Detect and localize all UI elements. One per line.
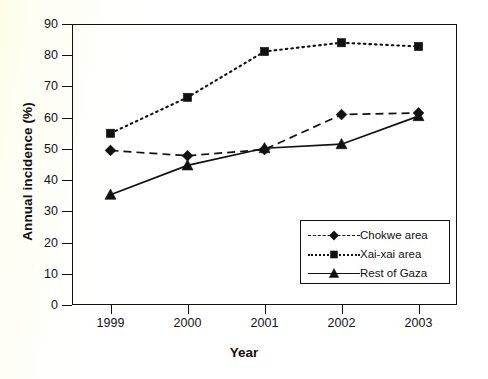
y-axis-tick-label: 10 xyxy=(18,268,58,281)
y-axis-tick xyxy=(62,243,72,244)
data-point-marker xyxy=(105,145,116,156)
y-axis-tick xyxy=(62,149,72,150)
y-axis-tick xyxy=(62,211,72,212)
series-xai-xai-area xyxy=(106,39,422,138)
data-point-marker xyxy=(336,109,347,120)
data-point-marker xyxy=(106,129,114,137)
x-axis-tick xyxy=(419,305,420,314)
x-axis-tick xyxy=(111,305,112,314)
data-point-marker xyxy=(260,47,268,55)
legend-key xyxy=(308,229,360,243)
y-axis-tick xyxy=(62,86,72,87)
legend-label: Xai-xai area xyxy=(360,249,421,261)
x-axis-title: Year xyxy=(0,345,488,360)
x-axis-tick xyxy=(265,305,266,314)
legend-item: Xai-xai area xyxy=(301,245,449,264)
chart-legend: Chokwe areaXai-xai areaRest of Gaza xyxy=(300,220,450,284)
series-line xyxy=(111,43,419,134)
x-axis-tick xyxy=(342,305,343,314)
y-axis-tick-label: 20 xyxy=(18,236,58,249)
data-point-marker xyxy=(414,42,422,50)
y-axis-tick-label: 90 xyxy=(18,18,58,31)
y-axis-tick-label: 60 xyxy=(18,111,58,124)
y-axis-tick-label: 50 xyxy=(18,143,58,156)
legend-key xyxy=(308,267,360,281)
y-axis-tick xyxy=(62,274,72,275)
legend-item: Rest of Gaza xyxy=(301,264,449,283)
legend-label: Chokwe area xyxy=(360,230,428,242)
y-axis-tick-label: 70 xyxy=(18,80,58,93)
legend-label: Rest of Gaza xyxy=(360,268,427,280)
y-axis-tick-label: 40 xyxy=(18,174,58,187)
y-axis-tick xyxy=(62,24,72,25)
y-axis-tick xyxy=(62,305,72,306)
x-axis-tick-label: 2002 xyxy=(312,316,372,330)
y-axis-tick xyxy=(62,118,72,119)
y-axis-tick-label: 30 xyxy=(18,205,58,218)
legend-marker-diamond-icon xyxy=(328,229,340,242)
x-axis-tick-label: 1999 xyxy=(81,316,141,330)
x-axis-tick-label: 2000 xyxy=(158,316,218,330)
x-axis-tick-label: 2001 xyxy=(235,316,295,330)
series-chokwe-area xyxy=(105,108,424,162)
legend-marker-square-icon xyxy=(328,248,340,261)
legend-key xyxy=(308,248,360,262)
legend-marker-triangle-icon xyxy=(328,267,340,280)
x-axis-tick xyxy=(188,305,189,314)
y-axis-tick-label: 0 xyxy=(18,299,58,312)
y-axis-tick xyxy=(62,55,72,56)
line-chart-figure: Annual incidence (%) Year Chokwe areaXai… xyxy=(0,0,488,379)
data-point-marker xyxy=(183,93,191,101)
series-line xyxy=(111,116,419,195)
x-axis-tick-label: 2003 xyxy=(389,316,449,330)
data-point-marker xyxy=(337,39,345,47)
y-axis-tick xyxy=(62,180,72,181)
y-axis-tick-label: 80 xyxy=(18,49,58,62)
legend-item: Chokwe area xyxy=(301,226,449,245)
